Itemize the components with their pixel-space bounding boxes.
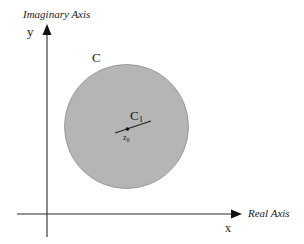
contour-c1-main: C [130, 108, 139, 123]
real-axis-label: Real Axis [247, 207, 290, 219]
disk-region-c [65, 65, 189, 189]
contour-c1-subscript: 1 [139, 114, 144, 124]
imaginary-axis-arrow-icon [43, 24, 52, 35]
imaginary-axis-label: Imaginary Axis [22, 8, 90, 20]
real-axis-arrow-icon [231, 210, 242, 219]
complex-plane-diagram: Imaginary Axis y Real Axis x C C1 z0 [0, 0, 304, 244]
z0-subscript: 0 [127, 137, 130, 143]
x-variable-label: x [225, 221, 231, 235]
y-variable-label: y [27, 24, 34, 39]
point-z0 [126, 127, 130, 131]
contour-c-label: C [92, 50, 101, 65]
